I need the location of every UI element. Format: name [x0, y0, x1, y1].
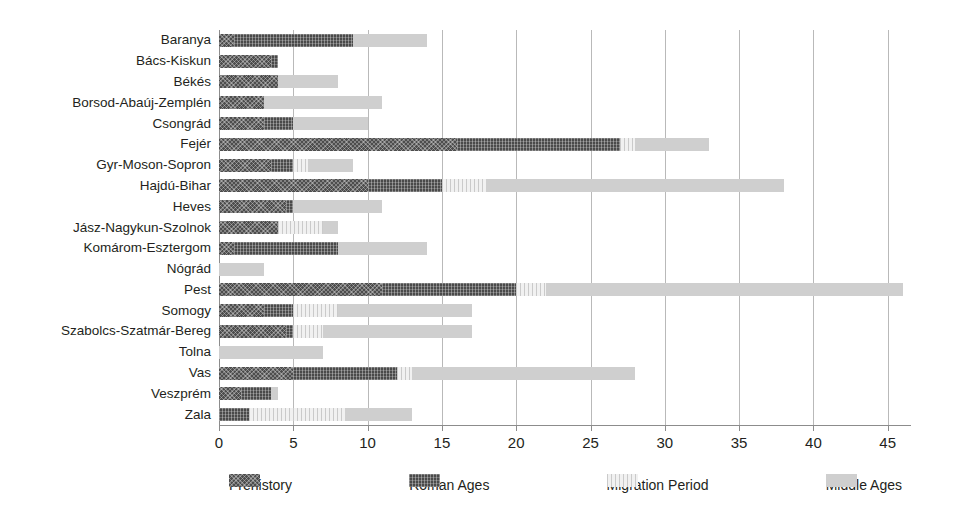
bar-row	[219, 408, 910, 421]
x-tick-label: 20	[508, 434, 525, 451]
bar-segment-prehistory	[219, 75, 278, 88]
bar-segment-prehistory	[219, 367, 293, 380]
bar-segment-roman	[286, 325, 293, 338]
x-tick	[813, 425, 814, 431]
category-label: Baranya	[161, 33, 211, 47]
bar-segment-prehistory	[219, 221, 278, 234]
bar-segment-middle	[338, 304, 472, 317]
bar-row	[219, 304, 910, 317]
category-label: Hajdú-Bihar	[140, 179, 211, 193]
bar-segment-middle	[345, 408, 412, 421]
bar-segment-middle	[293, 200, 382, 213]
bar-row	[219, 325, 910, 338]
bar-row	[219, 55, 910, 68]
bar-segment-prehistory	[219, 283, 382, 296]
x-tick-label: 5	[289, 434, 297, 451]
bar-segment-prehistory	[219, 325, 286, 338]
bar-row	[219, 117, 910, 130]
chart-legend: PrehistoryRoman AgesMigration PeriodMidd…	[219, 474, 910, 496]
bar-segment-migration	[293, 159, 308, 172]
category-label: Fejér	[180, 137, 211, 151]
bar-segment-middle	[293, 117, 367, 130]
bar-segment-migration	[293, 325, 323, 338]
bar-segment-prehistory	[219, 242, 234, 255]
bar-row	[219, 96, 910, 109]
x-tick	[888, 425, 889, 431]
x-tick-label: 25	[582, 434, 599, 451]
category-label: Somogy	[161, 304, 211, 318]
bar-segment-prehistory	[219, 200, 286, 213]
bar-segment-prehistory	[219, 179, 368, 192]
stacked-bar-chart: BaranyaBács-KiskunBékésBorsod-Abaúj-Zemp…	[0, 0, 968, 520]
category-label: Tolna	[179, 345, 211, 359]
bar-segment-middle	[338, 242, 427, 255]
x-tick-label: 0	[215, 434, 223, 451]
bar-row	[219, 367, 910, 380]
bar-segment-middle	[353, 34, 427, 47]
bar-segment-migration	[442, 179, 487, 192]
category-label: Borsod-Abaúj-Zemplén	[72, 96, 211, 110]
legend-item-migration[interactable]: Migration Period	[607, 477, 709, 493]
legend-swatch-migration	[607, 474, 638, 487]
bar-segment-prehistory	[219, 117, 264, 130]
x-tick	[368, 425, 369, 431]
bar-segment-migration	[516, 283, 546, 296]
x-tick	[293, 425, 294, 431]
legend-swatch-middle	[826, 474, 857, 487]
bar-row	[219, 221, 910, 234]
x-tick	[219, 425, 220, 431]
bar-segment-roman	[264, 304, 294, 317]
bar-row	[219, 75, 910, 88]
bar-segment-migration	[278, 221, 323, 234]
category-label: Gyr-Moson-Sopron	[96, 158, 211, 172]
bar-row	[219, 138, 910, 151]
bar-segment-middle	[546, 283, 903, 296]
bar-segment-prehistory	[219, 96, 264, 109]
bar-segment-roman	[241, 387, 271, 400]
legend-item-prehistory[interactable]: Prehistory	[229, 477, 292, 493]
bar-row	[219, 387, 910, 400]
bar-segment-roman	[382, 283, 516, 296]
x-tick	[591, 425, 592, 431]
category-label: Pest	[184, 283, 211, 297]
bar-segment-middle	[486, 179, 783, 192]
bar-segment-roman	[286, 200, 293, 213]
legend-item-roman[interactable]: Roman Ages	[409, 477, 489, 493]
x-axis-line	[219, 425, 911, 426]
bar-segment-middle	[323, 221, 338, 234]
bar-segment-middle	[308, 159, 353, 172]
bar-segment-migration	[293, 304, 338, 317]
category-label: Nógrád	[167, 262, 211, 276]
x-tick	[516, 425, 517, 431]
bar-segment-roman	[234, 242, 338, 255]
category-label: Bács-Kiskun	[136, 54, 211, 68]
bar-segment-prehistory	[219, 387, 241, 400]
x-tick-label: 35	[731, 434, 748, 451]
bar-row	[219, 34, 910, 47]
category-label: Jász-Nagykun-Szolnok	[73, 221, 211, 235]
bar-segment-migration	[249, 408, 346, 421]
bar-segment-middle	[271, 387, 278, 400]
bar-segment-middle	[635, 138, 709, 151]
category-label: Békés	[173, 75, 211, 89]
bar-segment-prehistory	[219, 34, 234, 47]
bar-row	[219, 200, 910, 213]
x-tick-label: 45	[879, 434, 896, 451]
category-label: Vas	[189, 366, 211, 380]
x-tick	[442, 425, 443, 431]
legend-swatch-roman	[409, 474, 440, 487]
bar-segment-roman	[293, 367, 397, 380]
category-label: Szabolcs-Szatmár-Bereg	[61, 324, 211, 338]
legend-item-middle[interactable]: Middle Ages	[826, 477, 902, 493]
bar-segment-migration	[397, 367, 412, 380]
bar-segment-roman	[234, 34, 353, 47]
bar-segment-migration	[620, 138, 635, 151]
bar-segment-middle	[264, 96, 383, 109]
bar-segment-roman	[271, 55, 278, 68]
legend-swatch-prehistory	[229, 474, 260, 487]
bar-row	[219, 242, 910, 255]
bar-segment-roman	[457, 138, 620, 151]
category-label: Komárom-Esztergom	[83, 241, 211, 255]
x-tick-label: 10	[359, 434, 376, 451]
category-axis-labels: BaranyaBács-KiskunBékésBorsod-Abaúj-Zemp…	[0, 0, 211, 395]
